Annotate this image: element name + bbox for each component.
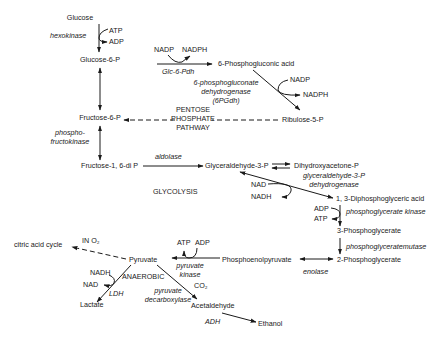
label-glycolysis: GLYCOLYSIS <box>153 187 198 196</box>
metabolite-lactate: Lactate <box>80 300 104 309</box>
metabolite-ethanol: Ethanol <box>258 319 283 328</box>
enzyme-g6pdh: Glc-6-Pdh <box>162 67 194 76</box>
dashed-pyruvate-to-citric <box>72 247 126 259</box>
metabolite-acetaldehyde: Acetaldehyde <box>191 301 235 310</box>
enzyme-pfk-line2: fructokinase <box>51 137 90 146</box>
cofactor-adp-2: ADP <box>314 204 329 213</box>
metabolite-glucose: Glucose <box>67 13 93 22</box>
nadp-nadph-curve <box>168 55 190 62</box>
cofactor-nadp-1: NADP <box>154 45 174 54</box>
metabolite-phosphoenolpyruvate: Phosphoenolpyruvate <box>222 255 292 264</box>
enzyme-6pgdh-line2: dehydrogenase <box>201 87 251 96</box>
label-pentose-1: PENTOSE <box>176 105 210 114</box>
cofactor-adp-1: ADP <box>109 37 124 46</box>
metabolite-citric-acid-cycle: citric acid cycle <box>14 240 62 249</box>
metabolite-2-phosphoglycerate: 2-Phosphoglycerate <box>337 255 401 264</box>
metabolite-13-diphosphoglyceric: 1, 3-Diphosphoglyceric acid <box>336 194 424 203</box>
enzyme-pgk: phosphoglycerate kinase <box>345 207 426 216</box>
metabolite-glucose-6p: Glucose-6-P <box>80 55 120 64</box>
enzyme-pk-line1: pyruvate <box>175 261 204 270</box>
cofactor-co2: CO₂ <box>194 281 208 290</box>
metabolite-ribulose-5p: Ribulose-5-P <box>282 115 324 124</box>
cofactor-nadph-1: NADPH <box>182 45 207 54</box>
nad-nadh-curve <box>268 184 291 197</box>
enzyme-hexokinase: hexokinase <box>50 31 86 40</box>
enzyme-aldolase: aldolase <box>155 152 182 161</box>
cofactor-nadh-1: NADH <box>251 192 271 201</box>
metabolite-glyceraldehyde-3p: Glyceraldehyde-3-P <box>205 161 269 170</box>
arrow-acetaldehyde-to-ethanol <box>222 313 256 322</box>
metabolite-pyruvate: Pyruvate <box>129 255 157 264</box>
cofactor-atp-3: ATP <box>177 238 191 247</box>
cofactor-atp-2: ATP <box>314 214 328 223</box>
enzyme-pfk-line1: phospho- <box>54 128 86 137</box>
enzyme-pdc-line1: pyruvate <box>153 286 182 295</box>
enzyme-gapdh-line1: glyceraldehyde-3-P <box>303 171 365 180</box>
label-pentose-3: PATHWAY <box>176 123 210 132</box>
cofactor-nadh-2: NADH <box>90 268 110 277</box>
metabolite-6-phosphogluconic: 6-Phosphogluconic acid <box>218 59 294 68</box>
adp-atp-curve-1 <box>331 208 340 219</box>
atp-adp-curve-2 <box>184 248 197 258</box>
metabolite-fructose-6p: Fructose-6-P <box>79 113 121 122</box>
enzyme-6pgdh-line3: (6PGdh) <box>212 96 239 105</box>
atp-adp-curve <box>99 29 108 42</box>
cofactor-nadp-2: NADP <box>290 75 310 84</box>
enzyme-pk-line2: kinase <box>180 270 201 279</box>
cofactor-adp-3: ADP <box>195 238 210 247</box>
cofactor-nad-2: NAD <box>83 280 98 289</box>
enzyme-enolase: enolase <box>303 267 328 276</box>
enzyme-gapdh-line2: dehydrogenase <box>309 180 359 189</box>
cofactor-nad-1: NAD <box>251 180 266 189</box>
enzyme-pgm: phosphoglyceratemutase <box>345 242 426 251</box>
label-pentose-2: PHOSPHATE <box>171 114 215 123</box>
metabolite-dihydroxyacetone-p: Dihydroxyacetone-P <box>294 161 359 170</box>
cofactor-atp-1: ATP <box>109 26 123 35</box>
enzyme-ldh: LDH <box>109 289 124 298</box>
metabolite-3-phosphoglycerate: 3-Phosphoglycerate <box>337 226 401 235</box>
metabolite-fructose-16dip: Fructose-1, 6-di P <box>81 161 138 170</box>
enzyme-6pgdh-line1: 6-phosphogluconate <box>193 78 258 87</box>
enzyme-adh: ADH <box>204 317 221 326</box>
cofactor-nadph-2: NADPH <box>303 90 328 99</box>
label-in-o2: IN O₂ <box>82 236 100 245</box>
glycolysis-pathway-diagram: Glucose ATP ADP hexokinase Glucose-6-P F… <box>0 0 445 340</box>
label-anaerobic: ANAEROBIC <box>122 272 164 281</box>
enzyme-pdc-line2: decarboxylase <box>145 295 191 304</box>
